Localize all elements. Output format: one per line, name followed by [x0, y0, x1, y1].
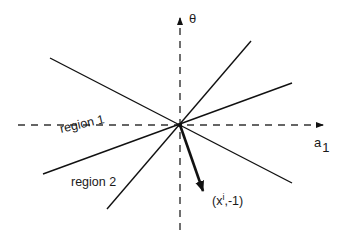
diagram-canvas: θ a1 region 1 region 2 (xi,-1) [0, 0, 344, 239]
vector-label-suffix: ,-1) [224, 194, 243, 208]
region-2-label: region 2 [71, 175, 116, 189]
a1-label-main: a [314, 135, 322, 150]
theta-label: θ [189, 11, 196, 26]
vector-label: (xi,-1) [212, 192, 243, 208]
diagram-svg: θ a1 region 1 region 2 (xi,-1) [0, 0, 344, 239]
a1-label-subscript: 1 [322, 140, 329, 155]
a1-label: a1 [314, 135, 329, 155]
region-1-label: region 1 [59, 112, 106, 136]
